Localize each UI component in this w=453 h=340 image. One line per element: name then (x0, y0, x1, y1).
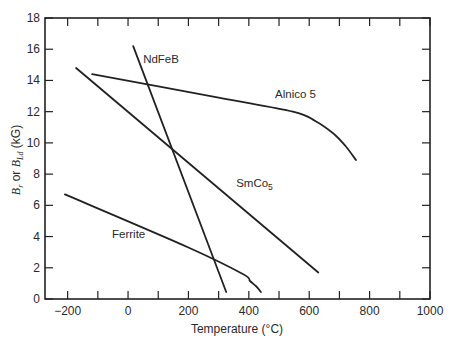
curve-ferrite (65, 194, 261, 292)
x-tick-label: 0 (125, 304, 132, 318)
y-tick-label: 8 (33, 167, 40, 181)
y-tick-label: 14 (27, 73, 41, 87)
x-axis-title: Temperature (°C) (191, 322, 283, 336)
label-smco5: SmCo5 (236, 177, 273, 192)
y-title-unit: (kG) (9, 125, 23, 152)
x-tick-label: 1000 (417, 304, 444, 318)
curves (65, 46, 356, 292)
x-tick-label: −200 (54, 304, 81, 318)
y-tick-label: 10 (27, 136, 41, 150)
label-ferrite: Ferrite (112, 228, 145, 240)
y-tick-label: 12 (27, 105, 41, 119)
curve-alnico-5 (92, 74, 356, 160)
y-tick-label: 2 (33, 261, 40, 275)
y-axis-title: Br or BLd (kG) (9, 125, 25, 195)
x-tick-label: 200 (178, 304, 198, 318)
x-tick-label: 400 (239, 304, 259, 318)
curve-labels: NdFeBAlnico 5SmCo5Ferrite (112, 53, 316, 240)
y-tick-label: 16 (27, 42, 41, 56)
chart: −20002004006008001000 024681012141618 Nd… (0, 0, 453, 340)
y-tick-label: 6 (33, 198, 40, 212)
y-tick-label: 0 (33, 292, 40, 306)
y-tick-label: 18 (27, 11, 41, 25)
label-alnico-5: Alnico 5 (275, 88, 316, 100)
plot-frame (45, 18, 430, 299)
x-tick-label: 800 (360, 304, 380, 318)
y-tick-label: 4 (33, 230, 40, 244)
y-title-or: or (9, 167, 23, 184)
plot-border (45, 18, 430, 299)
y-axis-ticks: 024681012141618 (27, 11, 430, 306)
x-axis-ticks: −20002004006008001000 (54, 18, 444, 318)
label-ndfeb: NdFeB (143, 53, 179, 65)
curve-ndfeb (133, 46, 226, 292)
x-tick-label: 600 (299, 304, 319, 318)
